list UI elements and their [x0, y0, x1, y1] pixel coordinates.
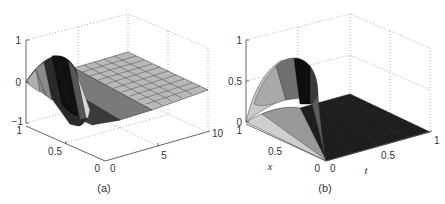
t-tick: 1 — [434, 135, 440, 146]
z-tick: 1 — [15, 35, 21, 46]
t-tick: 0.5 — [381, 150, 395, 161]
x-tick: 1 — [16, 125, 22, 136]
figure: 1 0 −1 1 0.5 0 0 5 10 (a) — [0, 0, 445, 204]
x-tick: 1 — [236, 125, 242, 136]
panel-b-caption: (b) — [318, 182, 331, 194]
z-tick: 0 — [15, 77, 21, 88]
t-tick: 0 — [330, 163, 336, 174]
x-axis-label: x — [267, 160, 273, 172]
t-tick: 10 — [212, 128, 224, 139]
t-axis-label: t — [364, 164, 368, 176]
x-tick: 0 — [94, 163, 100, 174]
t-tick: 0 — [110, 163, 116, 174]
z-tick: 1 — [236, 35, 242, 46]
t-tick: 5 — [161, 150, 167, 161]
panel-a: 1 0 −1 1 0.5 0 0 5 10 (a) — [12, 14, 224, 194]
z-tick: 0.5 — [228, 76, 242, 87]
panel-a-surface — [26, 52, 208, 126]
x-tick: 0.5 — [268, 146, 282, 157]
x-tick: 0.5 — [48, 146, 62, 157]
x-tick: 0 — [314, 163, 320, 174]
panel-a-caption: (a) — [97, 182, 110, 194]
panel-b: 1 0.5 0 1 0.5 0 0 0.5 1 x t (b) — [228, 14, 440, 194]
